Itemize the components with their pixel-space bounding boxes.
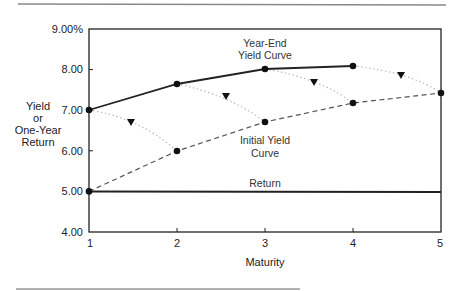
svg-text:Initial Yield: Initial Yield: [240, 134, 290, 146]
y-axis-title: Yield or One-Year Return: [15, 100, 62, 148]
svg-text:Curve: Curve: [251, 147, 279, 159]
y-tick-label: 6.00: [62, 145, 83, 157]
triangle-down-icon: [127, 72, 405, 126]
annotation-initial: Initial Yield Curve: [240, 134, 290, 159]
y-tick-label: 5.00: [62, 185, 83, 197]
return-line: [89, 191, 441, 192]
year-end-yield-curve: [89, 66, 353, 110]
y-tick-label: 7.00: [62, 104, 83, 116]
svg-text:or: or: [33, 112, 43, 124]
x-tick-label: 1: [87, 237, 93, 249]
svg-text:Year-End: Year-End: [243, 37, 287, 49]
top-rule: [18, 4, 446, 5]
x-tick-label: 2: [174, 237, 180, 249]
x-tick-label: 4: [350, 237, 356, 249]
svg-text:Yield: Yield: [26, 100, 50, 112]
svg-text:One-Year: One-Year: [15, 124, 62, 136]
data-point-markers: [86, 63, 445, 195]
x-tick-label: 5: [437, 237, 443, 249]
svg-text:Return: Return: [21, 136, 54, 148]
annotation-year-end: Year-End Yield Curve: [238, 37, 292, 61]
y-tick-label: 8.00: [62, 63, 83, 75]
x-axis: 1 2 3 4 5: [87, 228, 443, 249]
yield-curve-chart: 4.00 5.00 6.00 7.00 8.00 9.00% 1 2 3 4 5…: [0, 0, 460, 291]
x-tick-label: 3: [262, 237, 268, 249]
svg-text:Yield Curve: Yield Curve: [238, 49, 292, 61]
y-tick-label: 4.00: [62, 226, 83, 238]
x-axis-title: Maturity: [245, 256, 285, 268]
annotation-return: Return: [249, 177, 281, 189]
y-tick-label: 9.00%: [52, 23, 83, 35]
